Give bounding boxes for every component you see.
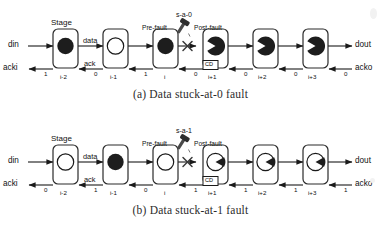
stage-index-i-1-b: i-1 — [110, 190, 117, 196]
label-pre-fault-b: Pre-fault — [142, 141, 167, 148]
stage-index-i-1-a: i-1 — [110, 74, 117, 80]
label-data-a: data — [83, 37, 97, 44]
ack-value-i-2-b: 0 — [44, 187, 47, 193]
ack-value-i-plus-2-a: 0 — [244, 71, 247, 77]
stage-index-i-plus-3-b: i+3 — [308, 190, 316, 196]
stage-index-i-2-a: i-2 — [60, 74, 67, 80]
ack-value-i-1-b: 1 — [94, 187, 97, 193]
figure-data-stuck-at-1: din acki dout acko Stage data ack Pre-fa… — [0, 116, 381, 232]
token-i-1 — [107, 154, 123, 170]
ack-value-i-plus-3-b: 1 — [294, 187, 297, 193]
label-stage-b: Stage — [51, 135, 72, 143]
stage-index-i-plus-1-a: i+1 — [208, 74, 216, 80]
scan-artifact-bottom — [370, 178, 375, 183]
figure-data-stuck-at-0: din acki dout acko Stage data ack Pre-fa… — [0, 0, 381, 116]
token-i — [157, 154, 173, 170]
ack-value-acko-a: 0 — [344, 71, 347, 77]
label-fault-type-a: s-a-0 — [176, 11, 192, 18]
label-din-a: din — [8, 41, 19, 49]
token-i-2 — [57, 38, 73, 54]
label-fault-type-b: s-a-1 — [176, 127, 192, 134]
stage-index-i-b: i — [164, 190, 165, 196]
stage-index-i-plus-3-a: i+3 — [308, 74, 316, 80]
ack-value-i-1-a: 0 — [94, 71, 97, 77]
ack-value-i-2-a: 1 — [44, 71, 47, 77]
stage-index-i-plus-1-b: i+1 — [208, 190, 216, 196]
label-data-b: data — [83, 153, 97, 160]
ack-value-i-plus-1-a: 0 — [194, 71, 197, 77]
ack-value-acko-b: 1 — [344, 187, 347, 193]
label-post-fault-b: Post-fault — [194, 141, 222, 148]
label-cd-a: CD — [205, 62, 213, 68]
label-stage-a: Stage — [51, 19, 72, 27]
label-dout-b: dout — [355, 157, 371, 165]
ack-value-i-a: 1 — [144, 71, 147, 77]
label-pre-fault-a: Pre-fault — [142, 25, 167, 32]
stage-index-i-plus-2-b: i+2 — [258, 190, 266, 196]
ack-value-i-b: 0 — [144, 187, 147, 193]
scan-artifact-top — [370, 8, 377, 19]
stage-index-i-a: i — [164, 74, 165, 80]
label-dout-a: dout — [355, 41, 371, 49]
token-i — [157, 38, 173, 54]
label-acko-a: acko — [355, 64, 372, 72]
label-ack-a: ack — [84, 60, 96, 67]
stage-index-i-plus-2-a: i+2 — [258, 74, 266, 80]
label-din-b: din — [8, 157, 19, 165]
label-acki-b: acki — [3, 180, 18, 188]
label-cd-b: CD — [205, 178, 213, 184]
token-i-2 — [57, 154, 73, 170]
label-acki-a: acki — [3, 64, 18, 72]
ack-value-i-plus-2-b: 1 — [244, 187, 247, 193]
ack-value-i-plus-3-a: 0 — [294, 71, 297, 77]
label-post-fault-a: Post-fault — [194, 25, 222, 32]
ack-value-i-plus-1-b: 1 — [194, 187, 197, 193]
figure-caption-a: (a) Data stuck-at-0 fault — [0, 88, 381, 100]
label-ack-b: ack — [84, 176, 96, 183]
stage-index-i-2-b: i-2 — [60, 190, 67, 196]
token-i-1 — [107, 38, 123, 54]
figure-caption-b: (b) Data stuck-at-1 fault — [0, 204, 381, 216]
